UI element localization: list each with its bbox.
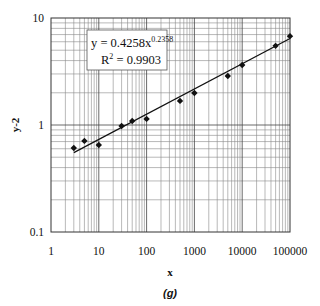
- equation-exponent: 0.2358: [151, 35, 173, 44]
- data-point-diamond-marker: [177, 98, 183, 104]
- y-axis-tick-labels: 10 1 0.1: [30, 12, 45, 238]
- figure-caption: (g): [163, 287, 177, 299]
- x-tick-1: 1: [48, 245, 54, 257]
- equation-base: y = 0.4258x: [91, 36, 152, 50]
- y-tick-10: 10: [33, 12, 45, 24]
- x-axis-tick-labels: 1 10 100 1000 10000 100000: [48, 245, 307, 257]
- equation-box: y = 0.4258x0.2358 R2 = 0.9903: [87, 30, 173, 70]
- y-tick-0-1: 0.1: [30, 226, 45, 238]
- y-axis-title: y-2: [9, 117, 21, 132]
- x-tick-100: 100: [138, 245, 156, 257]
- x-tick-10: 10: [93, 245, 105, 257]
- x-axis-title: x: [167, 266, 173, 278]
- x-tick-1000: 1000: [183, 245, 206, 257]
- data-point-diamond-marker: [272, 43, 278, 49]
- data-point-diamond-marker: [81, 138, 87, 144]
- x-tick-100000: 100000: [273, 245, 308, 257]
- chart: 10 1 0.1 1 10 100 1000 10000 100000 y-2 …: [0, 0, 320, 306]
- y-tick-1: 1: [38, 119, 44, 131]
- r-squared-value: = 0.9903: [113, 53, 161, 67]
- x-tick-10000: 10000: [228, 245, 257, 257]
- data-point-diamond-marker: [71, 145, 77, 151]
